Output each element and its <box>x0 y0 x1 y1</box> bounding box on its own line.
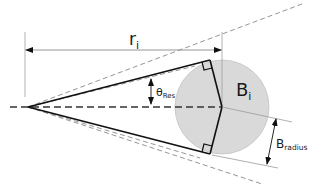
cone-resolution-diagram: ri Bi θRes Bradius <box>0 0 312 194</box>
bradius-dimension-arrow <box>267 119 276 164</box>
bradius-label: Bradius <box>276 137 308 152</box>
r-label: ri <box>129 29 139 52</box>
theta-res-label: θRes <box>156 86 176 100</box>
inner-dashed-lower-line <box>28 107 200 158</box>
